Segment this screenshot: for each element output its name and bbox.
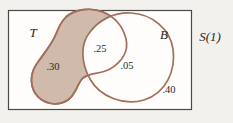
- region-value-b-only: .05: [120, 60, 133, 71]
- sample-space-label: S(1): [199, 29, 221, 44]
- region-value-intersection: .25: [93, 43, 106, 54]
- venn-diagram-canvas: T B .30 .25 .05 .40 S(1): [0, 0, 233, 123]
- set-t-label: T: [29, 25, 37, 40]
- region-value-outside: .40: [162, 84, 175, 95]
- region-value-t-only: .30: [46, 61, 59, 72]
- set-b-label: B: [160, 27, 168, 42]
- venn-diagram-figure: T B .30 .25 .05 .40 S(1): [0, 0, 233, 123]
